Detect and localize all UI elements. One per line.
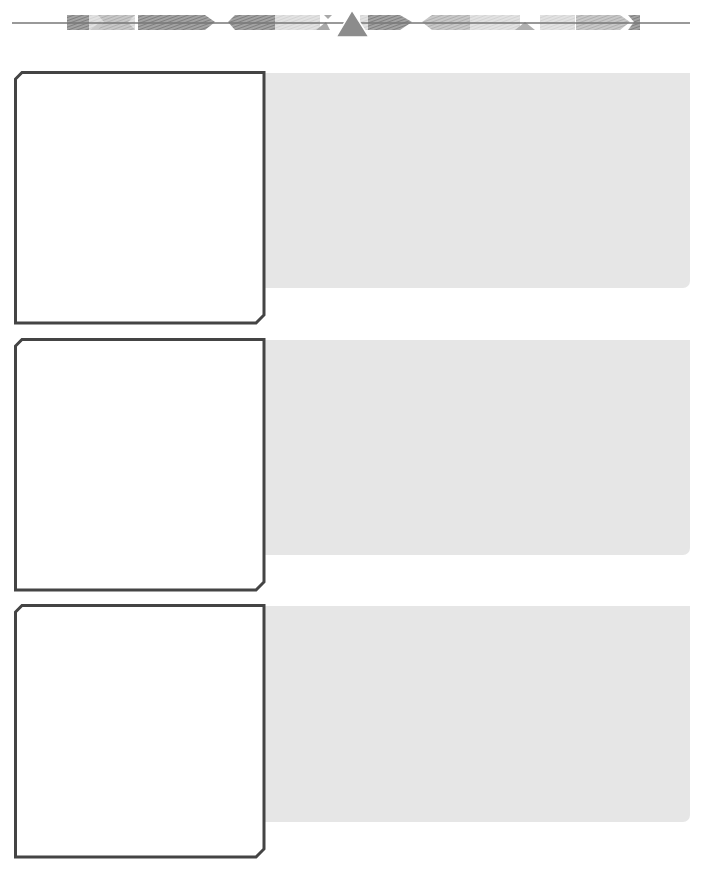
- row-2: [0, 337, 707, 597]
- notes-panel-2[interactable]: [262, 340, 690, 555]
- box-frame-3: [14, 604, 266, 860]
- drawing-box-1[interactable]: [14, 71, 266, 325]
- drawing-box-2[interactable]: [14, 338, 266, 592]
- banner-ornament-icon: [0, 0, 707, 45]
- row-1: [0, 70, 707, 330]
- header-banner: [0, 0, 707, 45]
- box-frame-1: [14, 71, 266, 325]
- notes-panel-1[interactable]: [262, 73, 690, 288]
- notes-panel-3[interactable]: [262, 606, 690, 822]
- box-frame-2: [14, 338, 266, 592]
- drawing-box-3[interactable]: [14, 604, 266, 860]
- row-3: [0, 603, 707, 863]
